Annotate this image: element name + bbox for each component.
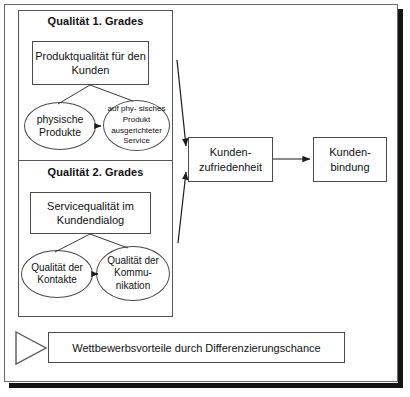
node-produktqualitaet-fuer-den-kunden: Produktqualität für den Kunden [32, 41, 149, 85]
panel-divider [18, 160, 173, 161]
node-qualitaet-der-kontakte: Qualität der Kontakte [21, 250, 93, 298]
panel-title-quality-first-grade: Qualität 1. Grades [18, 15, 173, 27]
node-physische-produkte: physische Produkte [24, 102, 96, 150]
node-auf-physisches-produkt-ausgerichteter-service: auf phy- sisches Produkt ausgerichteter … [103, 100, 170, 151]
frame-shadow-bottom [9, 383, 403, 388]
node-servicequalitaet-im-kundendialog: Servicequalität im Kundendialog [30, 192, 151, 234]
node-kundenbindung: Kunden- bindung [313, 137, 387, 182]
node-kundenzufriedenheit: Kunden- zufriedenheit [188, 137, 273, 182]
diagram-canvas: Qualität 1. Grades Qualität 2. Grades Pr… [0, 0, 410, 397]
banner-triangle-icon [14, 330, 48, 366]
banner-wettbewerbsvorteile: Wettbewerbsvorteile durch Differenzierun… [48, 332, 345, 363]
frame-shadow-right [398, 9, 403, 388]
panel-title-quality-second-grade: Qualität 2. Grades [18, 166, 173, 178]
node-qualitaet-der-kommunikation: Qualität der Kommu- nikation [96, 246, 170, 301]
